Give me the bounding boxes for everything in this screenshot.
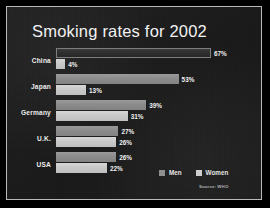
bar-group: Japan53%13% [15,73,255,99]
source-note: Source: WHO [199,184,228,189]
bar-women [56,163,107,173]
bar-men [56,152,116,162]
bar-value-label: 4% [68,61,77,68]
bar-men [56,48,211,58]
bar-value-label: 13% [89,87,102,94]
bar-value-label: 53% [182,76,195,83]
bar-value-label: 26% [119,139,132,146]
bar-men [56,100,146,110]
bar-row-men: 67% [56,48,255,58]
bar-group: China67%4% [15,47,255,73]
bar-women [56,85,86,95]
category-label: USA [15,151,51,177]
bar-row-men: 26% [56,152,255,162]
bar-value-label: 22% [110,165,123,172]
presentation-slide: Smoking rates for 2002 China67%4%Japan53… [6,6,262,200]
bar-value-label: 31% [131,113,144,120]
legend-label-men: Men [169,169,182,176]
bar-pair: 39%31% [56,99,255,125]
bar-pair: 53%13% [56,73,255,99]
bar-value-label: 26% [119,154,132,161]
bar-women [56,111,128,121]
category-label: U.K. [15,125,51,151]
bar-row-women: 13% [56,85,255,95]
bar-value-label: 27% [121,128,134,135]
legend-swatch-men-icon [159,170,165,176]
legend-item-women: Women [196,169,229,176]
bar-value-label: 39% [149,102,162,109]
bar-row-women: 26% [56,137,255,147]
bar-women [56,137,116,147]
bar-row-women: 4% [56,59,255,69]
bar-group: U.K.27%26% [15,125,255,151]
bar-pair: 67%4% [56,47,255,73]
page-title: Smoking rates for 2002 [32,22,207,41]
bar-row-men: 53% [56,74,255,84]
bar-group: Germany39%31% [15,99,255,125]
chart-legend: Men Women [159,169,228,176]
bar-row-men: 39% [56,100,255,110]
bar-row-women: 31% [56,111,255,121]
bar-pair: 27%26% [56,125,255,151]
bar-value-label: 67% [214,50,227,57]
bar-men [56,126,118,136]
category-label: Japan [15,73,51,99]
bar-women [56,59,65,69]
legend-item-men: Men [159,169,182,176]
category-label: China [15,47,51,73]
legend-swatch-women-icon [196,170,202,176]
legend-label-women: Women [206,169,229,176]
bar-chart-plot-area: China67%4%Japan53%13%Germany39%31%U.K.27… [15,45,255,187]
category-label: Germany [15,99,51,125]
bar-row-men: 27% [56,126,255,136]
bar-men [56,74,179,84]
